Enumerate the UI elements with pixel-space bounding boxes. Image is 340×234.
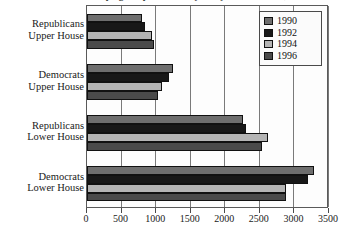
legend-swatch-icon [264, 52, 273, 60]
legend-item: 1990 [264, 16, 317, 27]
y-axis-label-line: Upper House [0, 30, 84, 42]
bar [87, 133, 268, 142]
bar [87, 40, 154, 49]
y-axis-label-line: Republicans [0, 120, 84, 132]
bar [87, 64, 173, 73]
bar-group [87, 158, 327, 209]
bar [87, 91, 158, 100]
y-axis-label: DemocratsLower House [0, 171, 84, 194]
bar [87, 166, 314, 175]
legend-swatch-icon [264, 40, 273, 48]
chart-title: Campaign Expenditures by Party and Chamb… [86, 0, 328, 1]
y-axis-label-line: Upper House [0, 81, 84, 93]
bar [87, 14, 142, 23]
y-axis-label: RepublicansLower House [0, 120, 84, 143]
bar-group [87, 108, 327, 159]
bar-chart: Campaign Expenditures by Party and Chamb… [0, 0, 340, 234]
y-axis-label-line: Democrats [0, 171, 84, 183]
gridline-3500 [328, 6, 329, 207]
chart-legend: 1990199219941996 [259, 11, 322, 66]
y-axis-label-line: Lower House [0, 131, 84, 143]
legend-item: 1994 [264, 39, 317, 50]
legend-label: 1992 [277, 28, 297, 38]
legend-item: 1992 [264, 27, 317, 38]
x-axis-labels: 0500100015002000250030003500 [0, 213, 340, 229]
bar [87, 31, 152, 40]
bar [87, 73, 169, 82]
bar [87, 175, 308, 184]
bar [87, 193, 286, 202]
y-axis-label-line: Republicans [0, 18, 84, 30]
legend-label: 1994 [277, 39, 297, 49]
legend-label: 1996 [277, 51, 297, 61]
y-axis-label: RepublicansUpper House [0, 18, 84, 41]
bar [87, 22, 145, 31]
bar [87, 184, 286, 193]
y-axis-label-line: Lower House [0, 182, 84, 194]
bar [87, 82, 162, 91]
legend-label: 1990 [277, 16, 297, 26]
legend-item: 1996 [264, 50, 317, 61]
legend-swatch-icon [264, 17, 273, 25]
x-axis-label-3500: 3500 [307, 213, 340, 224]
y-axis-label: DemocratsUpper House [0, 69, 84, 92]
bar [87, 142, 262, 151]
y-axis-label-line: Democrats [0, 69, 84, 81]
legend-swatch-icon [264, 29, 273, 37]
bar [87, 115, 243, 124]
bar [87, 124, 246, 133]
